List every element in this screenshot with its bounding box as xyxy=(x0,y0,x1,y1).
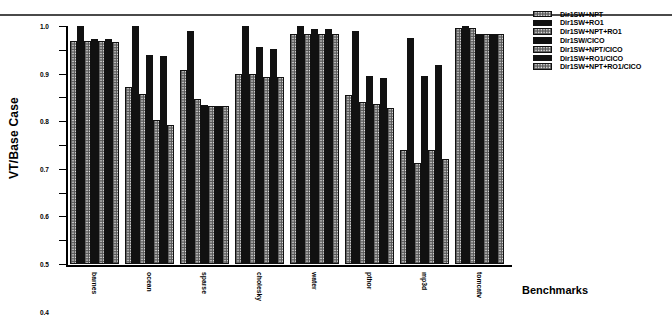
bar xyxy=(112,42,119,264)
y-axis-tick-label: 0.4 xyxy=(40,308,49,315)
bar xyxy=(256,47,263,264)
y-axis-tick-label: 0.6 xyxy=(40,213,49,220)
x-axis-category-label: tomcatv xyxy=(476,272,483,298)
y-axis-tick: 0.0 xyxy=(59,264,66,265)
bar xyxy=(380,78,387,264)
bar-group xyxy=(345,26,394,264)
legend-item[interactable]: Dir1SW+NPT+RO1/CICO xyxy=(533,63,669,71)
bar-group xyxy=(290,26,339,264)
bar xyxy=(407,38,414,264)
y-axis-tick: 0.1 xyxy=(59,240,66,241)
bar xyxy=(442,159,449,264)
bar xyxy=(469,28,476,264)
y-axis-title: VT/Base Case xyxy=(7,97,21,179)
legend-item-label: Dir1SW+NPT+RO1/CICO xyxy=(560,62,641,71)
bar xyxy=(421,76,428,264)
x-axis-title: Benchmarks xyxy=(522,284,588,296)
bar-group xyxy=(125,26,174,264)
bar xyxy=(297,26,304,264)
legend-item-label: Dir1SW+NPT xyxy=(560,10,603,19)
bar-chart-figure: VT/Base Case 0.00.10.20.30.40.50.60.70.8… xyxy=(0,0,672,324)
bar xyxy=(359,102,366,264)
bar xyxy=(428,150,435,264)
bar xyxy=(400,150,407,264)
legend-item[interactable]: Dir1SW+RO1 xyxy=(533,19,669,27)
bar xyxy=(277,77,284,264)
bar xyxy=(84,41,91,264)
bar xyxy=(139,94,146,264)
bar xyxy=(311,29,318,264)
x-axis-category-label: barnes xyxy=(91,272,98,294)
y-axis-tick: 0.5 xyxy=(59,145,66,146)
legend-swatch-icon xyxy=(533,55,552,62)
legend-item[interactable]: Dir1SW/CICO xyxy=(533,36,669,44)
bar xyxy=(160,56,167,264)
bar xyxy=(332,34,339,264)
bar xyxy=(345,95,352,264)
bar xyxy=(235,74,242,264)
bar xyxy=(222,106,229,264)
y-axis-tick-label: 0.8 xyxy=(40,118,49,125)
y-axis-tick-label: 0.7 xyxy=(40,165,49,172)
bar xyxy=(263,77,270,264)
x-axis-line xyxy=(66,265,512,267)
bar xyxy=(373,104,380,264)
legend-item-label: Dir1SW+NPT/CICO xyxy=(560,45,623,54)
legend-swatch-icon xyxy=(533,37,552,44)
y-axis-tick: 0.2 xyxy=(59,216,66,217)
bar xyxy=(215,106,222,265)
bar xyxy=(146,55,153,264)
y-axis-tick: 0.7 xyxy=(59,97,66,98)
legend-item-label: Dir1SW+RO1/CICO xyxy=(560,54,623,63)
bar xyxy=(270,49,277,264)
legend-item-label: Dir1SW/CICO xyxy=(560,36,604,45)
bar xyxy=(387,108,394,264)
bar xyxy=(242,26,249,264)
bar xyxy=(318,34,325,264)
y-axis-tick-label: 1.0 xyxy=(40,23,49,30)
bar xyxy=(483,34,490,264)
bar xyxy=(194,99,201,264)
bar-group xyxy=(400,26,449,264)
bar xyxy=(125,87,132,264)
bar xyxy=(201,105,208,264)
bar xyxy=(476,34,483,264)
bar xyxy=(249,74,256,264)
bar xyxy=(98,41,105,264)
bar xyxy=(490,34,497,264)
bar xyxy=(462,26,469,264)
y-axis-tick: 0.3 xyxy=(59,193,66,194)
chart-legend: Dir1SW+NPTDir1SW+RO1Dir1SW+NPT+RO1Dir1SW… xyxy=(533,10,669,71)
x-axis-category-label: cholesky xyxy=(256,272,263,301)
legend-swatch-icon xyxy=(533,20,552,27)
bar xyxy=(497,34,504,264)
bar xyxy=(325,29,332,264)
bar xyxy=(352,31,359,264)
legend-item[interactable]: Dir1SW+NPT/CICO xyxy=(533,45,669,53)
x-axis-category-label: sparse xyxy=(201,272,208,294)
y-axis-tick-label: 0.9 xyxy=(40,70,49,77)
bar xyxy=(366,76,373,264)
y-axis-tick-label: 0.5 xyxy=(40,261,49,268)
legend-item[interactable]: Dir1SW+NPT xyxy=(533,10,669,18)
legend-swatch-icon xyxy=(533,11,552,18)
bar xyxy=(208,106,215,264)
bar xyxy=(105,39,112,264)
bar xyxy=(180,70,187,264)
legend-item[interactable]: Dir1SW+RO1/CICO xyxy=(533,54,669,62)
legend-item[interactable]: Dir1SW+NPT+RO1 xyxy=(533,28,669,36)
y-axis-tick: 0.6 xyxy=(59,121,66,122)
x-axis-category-label: pthor xyxy=(366,272,373,289)
x-axis-category-label: ocean xyxy=(146,272,153,292)
bar xyxy=(77,26,84,264)
bar xyxy=(455,28,462,264)
bar-group xyxy=(235,26,284,264)
y-axis-tick: 0.4 xyxy=(59,169,66,170)
bar xyxy=(132,26,139,264)
x-axis-category-label: water xyxy=(311,272,318,290)
legend-swatch-icon xyxy=(533,28,552,35)
bar-group xyxy=(455,26,504,264)
legend-item-label: Dir1SW+RO1 xyxy=(560,18,604,27)
bar xyxy=(304,34,311,264)
plot-area: 0.00.10.20.30.40.50.60.70.80.91.0 xyxy=(66,26,506,264)
